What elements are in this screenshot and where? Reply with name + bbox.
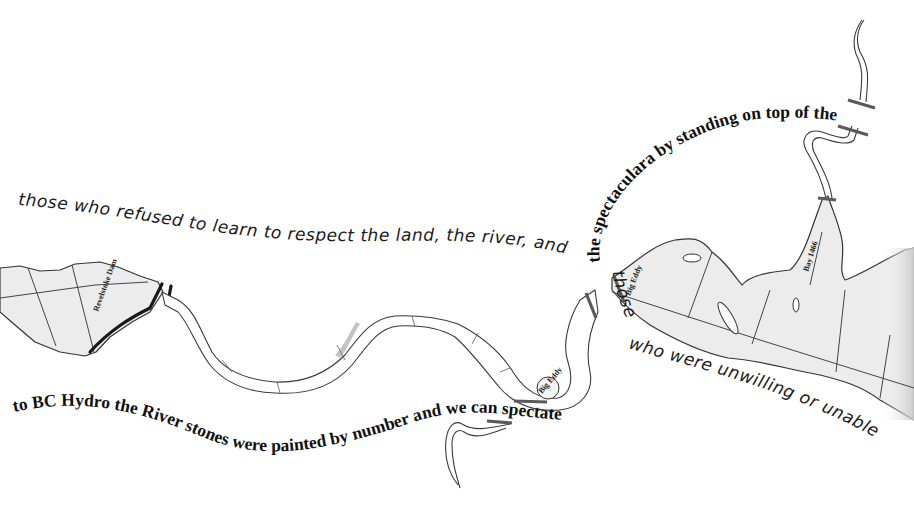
upper-channel (804, 126, 858, 198)
lower-channel (446, 423, 510, 488)
typeset-arc-upper-path: the spectaculara by standing on top of t… (583, 102, 839, 264)
island (793, 298, 799, 312)
river-channel: Big Eddy (162, 290, 598, 410)
poem-map-artwork: Revelstoke Dam Big Eddy Big Eddy Bay 146… (0, 0, 914, 514)
typeset-arc-upper: the spectaculara by standing on top of t… (583, 102, 839, 264)
river-body (162, 290, 598, 410)
edge-shadow (880, 248, 914, 420)
dam-marker-bar (487, 421, 512, 423)
reservoir-left-shape (0, 262, 163, 356)
handwritten-line-top: those who refused to learn to respect th… (18, 189, 570, 258)
dam-marker-small (818, 198, 836, 200)
dam-marker-bar (838, 126, 868, 135)
island (683, 254, 701, 262)
handwritten-line-top-path: those who refused to learn to respect th… (18, 189, 570, 258)
dam-marker-bar (848, 100, 875, 108)
revelstoke-reservoir: Revelstoke Dam (0, 257, 171, 356)
upper-headwater (854, 20, 867, 102)
map-canvas: Revelstoke Dam Big Eddy Big Eddy Bay 146… (0, 0, 914, 514)
